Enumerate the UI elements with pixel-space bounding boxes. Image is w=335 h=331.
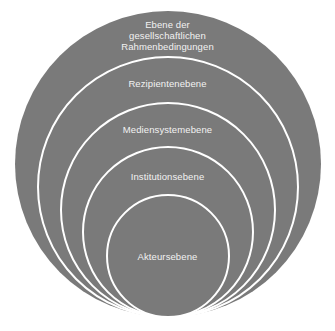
label-line: gesellschaftlichen (0, 30, 335, 41)
label-line: Akteursebene (0, 251, 335, 262)
level-label-gesellschaftliche-rahmenbedingungen: Ebene der gesellschaftlichen Rahmenbedin… (0, 19, 335, 52)
level-label-mediensystemebene: Mediensystemebene (0, 124, 335, 135)
label-line: Rezipientenebene (0, 78, 335, 89)
level-label-rezipientenebene: Rezipientenebene (0, 78, 335, 89)
label-line: Institutionsebene (0, 171, 335, 182)
label-line: Mediensystemebene (0, 124, 335, 135)
level-label-institutionsebene: Institutionsebene (0, 171, 335, 182)
label-line: Ebene der (0, 19, 335, 30)
label-line: Rahmenbedingungen (0, 41, 335, 52)
level-label-akteursebene: Akteursebene (0, 251, 335, 262)
